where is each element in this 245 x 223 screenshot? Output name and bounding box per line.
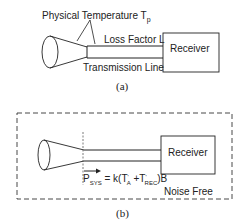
arrow-head-icon — [96, 169, 101, 174]
pointer-line — [90, 20, 95, 44]
noise-free-label: Noise Free — [164, 186, 213, 197]
antenna-aperture — [42, 36, 58, 68]
diagram-b: Receiver PSYS = k(T'A +T'REC)B Noise Fre… — [17, 113, 232, 220]
antenna-aperture — [38, 140, 50, 170]
horn-edge — [44, 161, 84, 170]
receiver-label: Receiver — [168, 147, 208, 158]
antenna-receiver-diagram: Physical Temperature Tp Loss Factor L Tr… — [0, 0, 245, 223]
loss-factor-label: Loss Factor L — [104, 34, 165, 45]
receiver-label: Receiver — [170, 43, 210, 54]
caption-a: (a) — [116, 80, 129, 93]
caption-b: (b) — [116, 207, 129, 220]
system-power-equation: PSYS = k(T'A +T'REC)B — [83, 173, 168, 186]
pointer-line — [77, 20, 90, 41]
horn-edge — [44, 140, 84, 150]
physical-temperature-label: Physical Temperature Tp — [42, 10, 151, 24]
diagram-a: Physical Temperature Tp Loss Factor L Tr… — [42, 10, 219, 93]
transmission-line-label: Transmission Line — [83, 62, 164, 73]
